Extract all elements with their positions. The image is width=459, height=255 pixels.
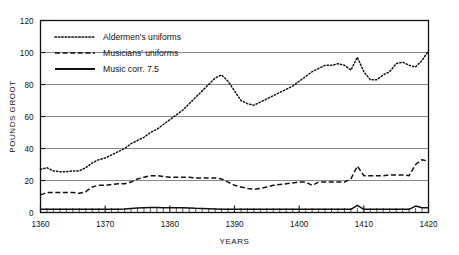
legend-label: Aldermen's uniforms: [103, 32, 181, 42]
chart-figure: 0204060801001201360137013801390140014101…: [0, 0, 459, 255]
xtick-label: 1380: [161, 220, 180, 229]
ytick-label: 80: [24, 81, 34, 90]
ytick-label: 20: [24, 177, 34, 186]
ytick-label: 40: [24, 145, 34, 154]
x-axis-title: YEARS: [220, 237, 250, 246]
ytick-label: 60: [24, 113, 34, 122]
ytick-label: 100: [20, 49, 34, 58]
legend-label: Musicians' uniforms: [103, 48, 178, 58]
xtick-label: 1360: [31, 220, 50, 229]
ytick-label: 120: [20, 17, 34, 26]
xtick-label: 1400: [290, 220, 309, 229]
ytick-label: 0: [29, 209, 34, 218]
xtick-label: 1420: [419, 220, 438, 229]
series-line-dotted: [41, 51, 429, 172]
line-chart: 0204060801001201360137013801390140014101…: [0, 0, 459, 255]
y-axis-title: POUNDS GROOT: [8, 80, 17, 152]
xtick-label: 1390: [225, 220, 244, 229]
xtick-label: 1370: [96, 220, 115, 229]
series-line-dashed: [41, 160, 429, 195]
xtick-label: 1410: [355, 220, 374, 229]
legend-label: Music corr. 7.5: [103, 64, 159, 74]
